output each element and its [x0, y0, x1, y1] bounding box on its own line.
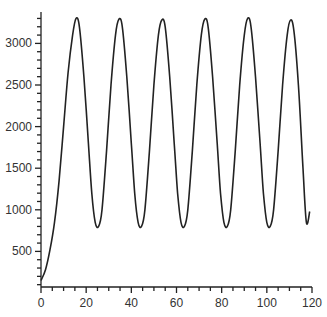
y-tick-label: 2500 [5, 78, 32, 92]
y-tick-label: 3000 [5, 36, 32, 50]
x-tick-label: 100 [257, 296, 277, 310]
x-tick-label: 20 [79, 296, 93, 310]
x-tick-label: 40 [125, 296, 139, 310]
line-chart: 50010001500200025003000020406080100120 [0, 0, 327, 317]
y-tick-label: 1000 [5, 203, 32, 217]
x-tick-label: 60 [170, 296, 184, 310]
y-tick-label: 1500 [5, 161, 32, 175]
x-tick-label: 0 [38, 296, 45, 310]
tick-labels: 50010001500200025003000020406080100120 [5, 36, 322, 310]
chart-axes [35, 12, 312, 293]
data-line [41, 18, 310, 281]
y-tick-label: 500 [12, 244, 32, 258]
x-tick-label: 80 [215, 296, 229, 310]
x-tick-label: 120 [302, 296, 322, 310]
y-tick-label: 2000 [5, 120, 32, 134]
